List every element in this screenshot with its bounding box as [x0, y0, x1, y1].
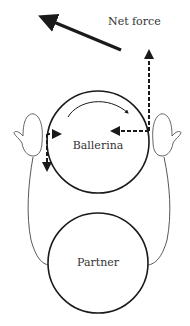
force-diagram: Net force Ballerina Partner — [0, 0, 190, 326]
ballerina-label: Ballerina — [73, 139, 124, 152]
right-hand-icon — [153, 114, 181, 156]
left-hand-icon — [14, 114, 42, 156]
rotation-arrow-icon — [68, 102, 128, 117]
net-force-label: Net force — [108, 15, 161, 28]
partner-label: Partner — [77, 256, 120, 269]
